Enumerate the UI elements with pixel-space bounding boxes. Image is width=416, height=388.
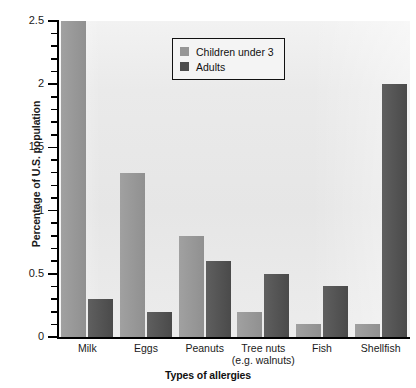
y-axis-tick-label: 0 bbox=[4, 331, 44, 342]
y-axis-minor-tick bbox=[51, 185, 58, 187]
y-axis-major-tick bbox=[48, 147, 58, 149]
bar bbox=[382, 84, 407, 337]
legend-swatch-adults-icon bbox=[180, 62, 189, 71]
y-axis-major-tick bbox=[48, 83, 58, 85]
y-axis-minor-tick bbox=[51, 109, 58, 111]
legend-label: Adults bbox=[196, 61, 225, 73]
y-axis-minor-tick bbox=[51, 33, 58, 35]
bar bbox=[206, 261, 231, 337]
y-axis-minor-tick bbox=[51, 96, 58, 98]
bar-chart: Percentage of U.S. population 00.511.522… bbox=[0, 0, 416, 388]
y-axis-minor-tick bbox=[51, 172, 58, 174]
y-axis-tick-label: 2 bbox=[4, 78, 44, 89]
x-axis-title: Types of allergies bbox=[0, 369, 416, 381]
bar bbox=[120, 173, 145, 337]
y-axis-minor-tick bbox=[51, 134, 58, 136]
y-axis-minor-tick bbox=[51, 248, 58, 250]
y-axis-minor-tick bbox=[51, 121, 58, 123]
y-axis-tick-label: 1 bbox=[4, 205, 44, 216]
y-axis-minor-tick bbox=[51, 71, 58, 73]
legend-item: Adults bbox=[180, 59, 274, 74]
bar bbox=[355, 324, 380, 337]
y-axis-minor-tick bbox=[51, 58, 58, 60]
y-axis-minor-tick bbox=[51, 222, 58, 224]
y-axis-minor-tick bbox=[51, 311, 58, 313]
y-axis-major-tick bbox=[48, 336, 58, 338]
y-axis-minor-tick bbox=[51, 235, 58, 237]
x-axis-category-label: Shellfish bbox=[333, 342, 416, 354]
x-axis-line bbox=[57, 337, 410, 339]
bar bbox=[264, 274, 289, 337]
y-axis-tick-label: 1.5 bbox=[4, 141, 44, 152]
bar bbox=[237, 312, 262, 337]
y-axis-major-tick bbox=[48, 273, 58, 275]
bar bbox=[179, 236, 204, 337]
y-axis-minor-tick bbox=[51, 197, 58, 199]
y-axis-minor-tick bbox=[51, 45, 58, 47]
y-axis-minor-tick bbox=[51, 324, 58, 326]
y-axis-minor-tick bbox=[51, 286, 58, 288]
legend-swatch-children-icon bbox=[180, 47, 189, 56]
bar bbox=[323, 286, 348, 337]
y-axis-major-tick bbox=[48, 210, 58, 212]
y-axis-major-tick bbox=[48, 20, 58, 22]
legend-label: Children under 3 bbox=[196, 46, 274, 58]
y-axis-tick-label: 0.5 bbox=[4, 268, 44, 279]
y-axis-minor-tick bbox=[51, 260, 58, 262]
bar bbox=[296, 324, 321, 337]
y-axis-tick-label: 2.5 bbox=[4, 15, 44, 26]
y-axis-minor-tick bbox=[51, 159, 58, 161]
y-axis-line bbox=[57, 20, 59, 338]
y-axis-minor-tick bbox=[51, 298, 58, 300]
legend-item: Children under 3 bbox=[180, 44, 274, 59]
bar bbox=[88, 299, 113, 337]
bar bbox=[61, 21, 86, 337]
bar bbox=[147, 312, 172, 337]
legend: Children under 3 Adults bbox=[172, 38, 285, 80]
